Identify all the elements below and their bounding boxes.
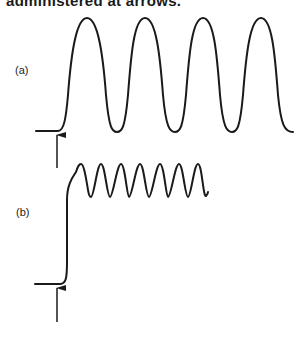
trace-a: [36, 18, 293, 132]
oscillation-figure: [0, 0, 308, 343]
trace-b: [35, 164, 208, 284]
